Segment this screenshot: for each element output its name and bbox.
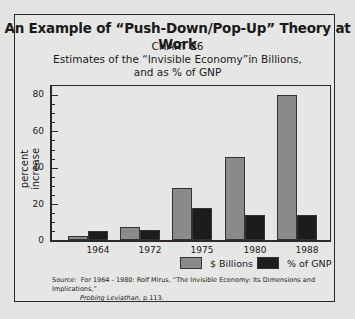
y-tick xyxy=(51,168,58,169)
y-tick-label-80: 80 xyxy=(24,89,44,99)
y-tick xyxy=(51,159,55,160)
y-tick xyxy=(51,177,55,178)
x-tick-label-1980: 1980 xyxy=(235,245,275,255)
y-tick xyxy=(51,222,55,223)
bar-1964-gnp xyxy=(88,231,108,240)
x-tick-label-1964: 1964 xyxy=(78,245,118,255)
bar-1975-gnp xyxy=(192,208,212,241)
y-tick xyxy=(51,95,58,96)
y-tick xyxy=(51,104,55,105)
chart-subtitle: Estimates of the “Invisible Economy”in B… xyxy=(0,53,355,79)
y-tick-label-0: 0 xyxy=(24,235,44,245)
legend-label-gnp: % of GNP xyxy=(287,258,331,269)
subtitle-line-2: and as % of GNP xyxy=(0,66,355,79)
y-tick xyxy=(51,213,55,214)
source-page: p.113. xyxy=(141,294,164,302)
legend-label-billions: $ Billions xyxy=(210,258,253,269)
y-tick xyxy=(51,204,58,205)
source-line-1: For 1964 - 1980: Rolf Mirus, “The Invisi… xyxy=(52,276,315,293)
subtitle-line-1: Estimates of the “Invisible Economy”in B… xyxy=(0,53,355,66)
bar-1964-billions xyxy=(68,236,88,241)
bar-1975-billions xyxy=(172,188,192,241)
bar-1988-billions xyxy=(277,95,297,241)
y-tick xyxy=(51,231,55,232)
x-tick-label-1988: 1988 xyxy=(287,245,327,255)
y-tick xyxy=(51,186,55,187)
source-label: Source: xyxy=(52,276,77,284)
chart-number: CHART 26 xyxy=(0,40,355,52)
bar-1988-gnp xyxy=(297,215,317,240)
y-tick xyxy=(51,241,58,242)
bar-1972-billions xyxy=(120,227,140,241)
legend-swatch-gnp xyxy=(257,257,279,269)
x-tick-label-1972: 1972 xyxy=(130,245,170,255)
legend-swatch-billions xyxy=(180,257,202,269)
y-tick xyxy=(51,195,55,196)
bar-1980-billions xyxy=(225,157,245,241)
y-axis-title: percent increase xyxy=(19,129,41,209)
y-axis xyxy=(50,85,52,241)
bar-1972-gnp xyxy=(140,230,160,241)
y-tick xyxy=(51,113,55,114)
y-tick xyxy=(51,131,58,132)
source-book-title: Probing Leviathan, xyxy=(80,294,141,302)
y-tick xyxy=(51,140,55,141)
source-note: Source: For 1964 - 1980: Rolf Mirus, “Th… xyxy=(52,276,322,303)
bar-1980-gnp xyxy=(245,215,265,240)
y-tick xyxy=(51,150,55,151)
y-tick xyxy=(51,122,55,123)
x-tick-label-1975: 1975 xyxy=(182,245,222,255)
